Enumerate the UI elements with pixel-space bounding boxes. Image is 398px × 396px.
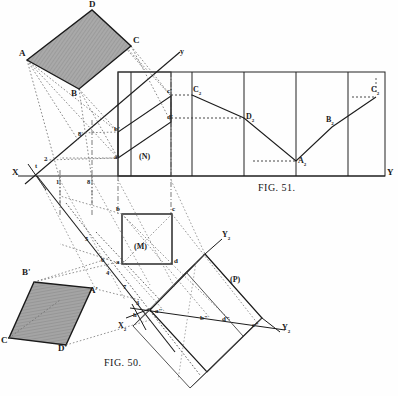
axis-label-x2: X2 — [118, 322, 126, 332]
chart-point-label-B2: B2 — [326, 116, 334, 126]
vertex-label-A-prime: A' — [89, 286, 98, 295]
fig50-caption: FIG. 50. — [104, 357, 142, 368]
plate-drawing — [0, 0, 398, 396]
point-label-a-prime: a' — [114, 154, 119, 161]
plane-label-M: (M) — [134, 243, 147, 251]
trace-number-1: 1 — [56, 179, 59, 186]
trace-number-8-lower: 8 — [87, 179, 90, 186]
vertex-label-D-prime: D' — [58, 344, 67, 353]
vertex-label-B: B — [71, 89, 77, 98]
plane-label-N: (N) — [139, 153, 150, 161]
point-label-c-prime: c' — [167, 88, 172, 95]
axis-label-y2-right: Y2 — [282, 324, 290, 334]
point-label-c: c — [172, 206, 175, 213]
trace-number-4: 4 — [106, 270, 109, 277]
plane-label-P: (P) — [230, 276, 240, 284]
point-label-d-dprime: d" — [222, 316, 230, 323]
trace-point-t: t — [35, 163, 37, 170]
point-label-b-prime: b' — [114, 126, 120, 133]
vertex-label-C-prime: C' — [1, 336, 10, 345]
chart-point-label-A2: A2 — [298, 157, 306, 167]
point-label-b: b — [116, 206, 120, 213]
vertex-label-A: A — [19, 49, 26, 58]
axis-label-oblique-y: y — [180, 48, 184, 56]
point-label-d-prime: d' — [167, 114, 173, 121]
point-label-c-dprime: c" — [252, 322, 259, 329]
point-label-b-dprime: b" — [200, 315, 208, 322]
oblique-axis-y — [25, 52, 180, 190]
vertex-label-C: C — [133, 36, 140, 45]
fig51-development-polyline — [171, 78, 376, 161]
chart-point-label-C2-right: C2 — [371, 86, 379, 96]
axis-label-y: Y — [387, 168, 394, 177]
trace-number-7: 7 — [123, 284, 126, 291]
chart-point-label-D2: D2 — [246, 113, 254, 123]
axis-label-x: X — [12, 168, 19, 177]
point-label-a-dprime: a" — [155, 308, 162, 315]
trace-number-8-upper: 8 — [78, 131, 81, 138]
point-label-a: a — [116, 259, 120, 266]
axis-label-y2-top: Y2 — [222, 231, 230, 241]
point-label-d: d — [174, 258, 178, 265]
trace-point-h: h — [133, 312, 137, 319]
plane-M-square — [122, 214, 172, 264]
projectors-M-to-P — [60, 196, 258, 324]
vertex-label-B-prime: B' — [22, 268, 31, 277]
trace-number-2: 2 — [44, 156, 47, 163]
fig51-caption: FIG. 51. — [258, 182, 296, 193]
trace-number-5: 5 — [85, 236, 88, 243]
bottom-shaded-parallelogram — [9, 282, 92, 345]
chart-point-label-C2-left: C2 — [193, 86, 201, 96]
vertex-label-D: D — [89, 0, 96, 9]
figure-plate: X Y y X2 Y2 Y2 (N) (M) (P) A D C B B' A'… — [0, 0, 398, 396]
trace-number-6: 6 — [101, 257, 104, 264]
trace-number-3: 3 — [136, 300, 139, 307]
